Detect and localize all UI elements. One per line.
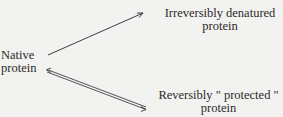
arrows-layer [0, 0, 283, 117]
equilibrium-arrow-icon [47, 68, 147, 112]
arrow-to-irreversible-icon [48, 13, 143, 55]
